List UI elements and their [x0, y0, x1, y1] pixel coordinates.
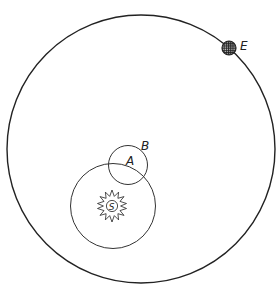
sun-label: S	[109, 202, 115, 212]
earth-icon	[222, 41, 236, 55]
point-b-label: B	[141, 139, 149, 153]
earth-label: E	[240, 39, 248, 53]
solar-system-diagram: S E B A	[0, 0, 278, 289]
point-a-label: A	[125, 154, 134, 168]
